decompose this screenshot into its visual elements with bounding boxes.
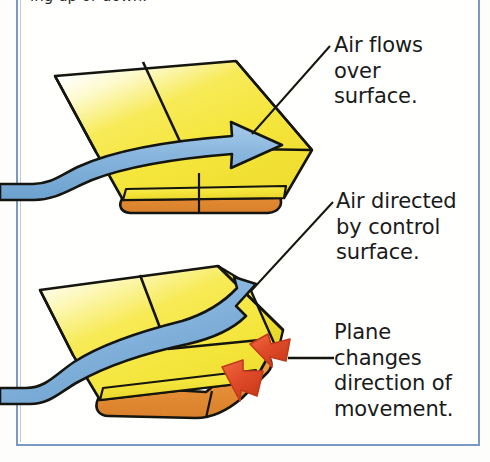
- callout-air-flows-over-surface: Air flows over surface.: [334, 33, 423, 110]
- wing-front-face-upper: [123, 186, 286, 200]
- wing-neutral-group: [0, 46, 330, 213]
- callout-plane-changes-direction-of-movement: Plane changes direction of movement.: [334, 320, 453, 422]
- callout-air-directed-by-control-surface: Air directed by control surface.: [336, 189, 457, 266]
- leader-line-air-directed: [251, 202, 333, 291]
- leader-line-air-flows: [252, 46, 330, 134]
- wing-deflected-group: [0, 202, 334, 418]
- figure-canvas: ing up or down.: [0, 0, 490, 462]
